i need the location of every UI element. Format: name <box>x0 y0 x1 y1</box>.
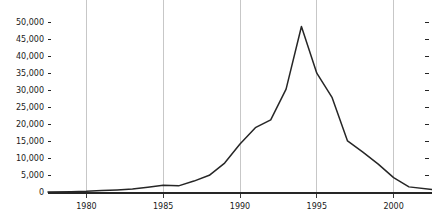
gridlines <box>86 0 393 193</box>
chart-canvas <box>0 0 432 223</box>
y-axis-tick-marks <box>48 23 51 193</box>
line-chart: 05,00010,00015,00020,00025,00030,00035,0… <box>0 0 432 223</box>
y-axis-tick-marks-right <box>425 23 429 193</box>
x-axis-tick-marks <box>86 193 393 198</box>
